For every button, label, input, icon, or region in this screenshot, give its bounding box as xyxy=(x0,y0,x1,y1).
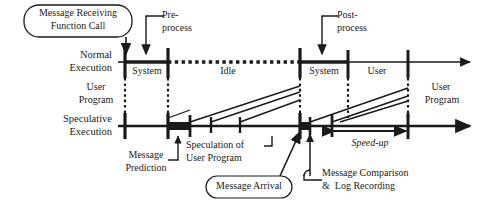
post-process-label-line1: Post- xyxy=(337,10,385,21)
speculative-execution-axis xyxy=(118,122,470,130)
speculation-label-line1: Speculation of xyxy=(186,140,270,151)
message-comparison-label-line2: & Log Recording xyxy=(322,181,440,192)
pre-process-label-line2: process xyxy=(162,23,217,34)
segment-label-user-program-right-line2: Program xyxy=(408,95,476,106)
message-prediction-label-line1: Message xyxy=(116,150,176,161)
message-arrival-callout-label: Message Arrival xyxy=(208,181,290,192)
speed-up-label: Speed-up xyxy=(340,138,400,149)
speculative-execution-label-line1: Speculative xyxy=(20,113,112,124)
segment-label-system-2: System xyxy=(302,66,346,77)
segment-label-user-program-left-line1: User xyxy=(70,82,122,93)
message-comparison-label-line1: Message Comparison xyxy=(322,168,440,179)
message-comparison-leader xyxy=(302,134,322,180)
message-prediction-label-line2: Prediction xyxy=(112,163,180,174)
figure-canvas: Message Receiving Function Call Pre- pro… xyxy=(0,0,488,218)
segment-label-idle: Idle xyxy=(212,66,244,77)
segment-label-user: User xyxy=(354,66,400,77)
speculative-execution-label-line2: Execution xyxy=(20,126,112,137)
post-process-leader xyxy=(322,16,338,54)
speculation-diagonal-connectors xyxy=(168,86,408,122)
segment-label-user-program-left-line2: Program xyxy=(62,95,130,106)
segment-label-user-program-right-line1: User xyxy=(415,82,467,93)
normal-execution-label-line2: Execution xyxy=(28,62,112,73)
message-receiving-callout-line2: Function Call xyxy=(28,21,128,32)
segment-label-system-1: System xyxy=(126,66,168,77)
speculation-label-line2: User Program xyxy=(186,153,270,164)
post-process-label-line2: process xyxy=(337,23,392,34)
message-arrival-leader xyxy=(280,132,300,176)
normal-execution-label-line1: Normal xyxy=(28,49,112,60)
pre-process-label-line1: Pre- xyxy=(162,10,210,21)
message-receiving-callout-line1: Message Receiving xyxy=(28,8,128,19)
message-prediction-block xyxy=(167,122,190,130)
